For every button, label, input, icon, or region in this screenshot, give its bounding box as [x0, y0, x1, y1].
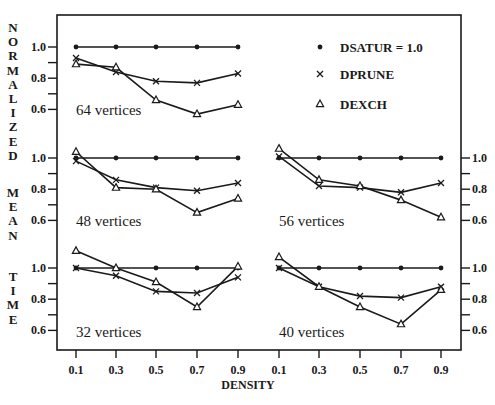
triangle-marker-icon [72, 148, 79, 155]
panel-label: 56 vertices [279, 213, 345, 229]
dot-marker-icon [318, 45, 323, 50]
y-axis-title-letter: N [8, 20, 18, 35]
series-line-dprune [76, 58, 238, 83]
y-axis-title-letter: T [9, 269, 18, 284]
y-axis-title-letter: A [8, 77, 18, 92]
triangle-marker-icon [234, 195, 241, 202]
y-tick-label: 0.8 [31, 71, 46, 85]
x-tick-label: 0.9 [434, 363, 449, 377]
y-tick-label: 1.0 [31, 40, 46, 54]
dot-marker-icon [74, 45, 79, 50]
panel-40-vertices: 40 vertices [275, 253, 444, 340]
y-tick-label: 1.0 [31, 261, 46, 275]
panel-32-vertices: 32 vertices [72, 247, 241, 340]
x-tick-label: 0.1 [272, 363, 287, 377]
y-axis-title-letter: M [7, 63, 19, 78]
y-axis-title-letter: L [9, 91, 18, 106]
dot-marker-icon [358, 156, 363, 161]
panel-48-vertices: 48 vertices [72, 148, 241, 229]
x-axis-title: DENSITY [221, 378, 275, 392]
legend-item: DPRUNE [317, 67, 394, 82]
x-tick-label: 0.9 [231, 363, 246, 377]
triangle-marker-icon [275, 253, 282, 260]
dot-marker-icon [195, 45, 200, 50]
panel-label: 48 vertices [76, 213, 142, 229]
y-axis-title-letter: I [10, 105, 15, 120]
panel-label: 32 vertices [76, 324, 142, 340]
panel-56-vertices: 56 vertices [275, 145, 444, 229]
dot-marker-icon [195, 266, 200, 271]
dot-marker-icon [439, 266, 444, 271]
y-axis-title-letter: E [9, 134, 18, 149]
panels: 64 vertices48 vertices56 vertices32 vert… [72, 45, 444, 340]
y-tick-label: 0.6 [31, 102, 46, 116]
y-tick-label: 1.0 [472, 261, 487, 275]
chart: NORMALIZEDMEANTIME 1.00.80.61.00.80.61.0… [0, 0, 495, 405]
y-tick-label: 0.8 [31, 182, 46, 196]
legend-item: DSATUR = 1.0 [318, 40, 423, 55]
x-tick-label: 0.5 [353, 363, 368, 377]
y-axis-title-letter: M [7, 185, 19, 200]
dot-marker-icon [439, 156, 444, 161]
x-tick-label: 0.3 [109, 363, 124, 377]
triangle-marker-icon [275, 145, 282, 152]
y-tick-label: 0.6 [31, 213, 46, 227]
x-tick-label: 0.1 [69, 363, 84, 377]
dot-marker-icon [317, 156, 322, 161]
y-axis-title-letter: E [9, 312, 18, 327]
dot-marker-icon [154, 266, 159, 271]
panel-label: 64 vertices [76, 102, 142, 118]
legend: DSATUR = 1.0DPRUNEDEXCH [316, 40, 422, 112]
dot-marker-icon [154, 45, 159, 50]
x-marker-icon [317, 71, 323, 77]
y-tick-label: 0.6 [31, 323, 46, 337]
y-tick-label: 1.0 [31, 151, 46, 165]
series-line-dprune [279, 268, 441, 298]
y-axis-title-letter: Z [9, 119, 18, 134]
y-axis-title-letter: R [8, 48, 18, 63]
triangle-marker-icon [72, 247, 79, 254]
y-tick-label: 0.8 [31, 292, 46, 306]
x-tick-label: 0.5 [149, 363, 164, 377]
legend-label: DPRUNE [340, 67, 394, 82]
dot-marker-icon [154, 156, 159, 161]
y-axis-title-letter: O [8, 34, 18, 49]
y-axis-title-letter: M [7, 297, 19, 312]
triangle-marker-icon [234, 262, 241, 269]
y-axis-title: NORMALIZEDMEANTIME [7, 20, 19, 327]
triangle-marker-icon [315, 176, 322, 183]
dot-marker-icon [114, 45, 119, 50]
y-axis-title-letter: I [10, 283, 15, 298]
y-tick-label: 0.8 [472, 182, 487, 196]
dot-marker-icon [114, 156, 119, 161]
dot-marker-icon [236, 156, 241, 161]
x-tick-label: 0.3 [312, 363, 327, 377]
x-tick-label: 0.7 [190, 363, 205, 377]
y-axis-title-letter: D [8, 148, 17, 163]
legend-label: DEXCH [340, 97, 387, 112]
dot-marker-icon [399, 266, 404, 271]
y-tick-label: 0.8 [472, 292, 487, 306]
y-axis-title-letter: N [8, 228, 18, 243]
y-tick-label: 0.6 [472, 213, 487, 227]
dot-marker-icon [358, 266, 363, 271]
triangle-marker-icon [234, 101, 241, 108]
dot-marker-icon [195, 156, 200, 161]
dot-marker-icon [236, 45, 241, 50]
y-tick-label: 1.0 [472, 151, 487, 165]
triangle-marker-icon [316, 100, 323, 107]
y-axis-title-letter: E [9, 199, 18, 214]
panel-label: 40 vertices [279, 324, 345, 340]
legend-item: DEXCH [316, 97, 387, 112]
x-tick-label: 0.7 [394, 363, 409, 377]
series-line-dexch [76, 152, 238, 213]
y-axis-title-letter: A [8, 213, 18, 228]
legend-label: DSATUR = 1.0 [340, 40, 423, 55]
y-tick-label: 0.6 [472, 323, 487, 337]
dot-marker-icon [399, 156, 404, 161]
x-axis: 0.10.30.50.70.90.10.30.50.70.9 [69, 350, 449, 377]
panel-64-vertices: 64 vertices [72, 45, 241, 118]
dot-marker-icon [317, 266, 322, 271]
